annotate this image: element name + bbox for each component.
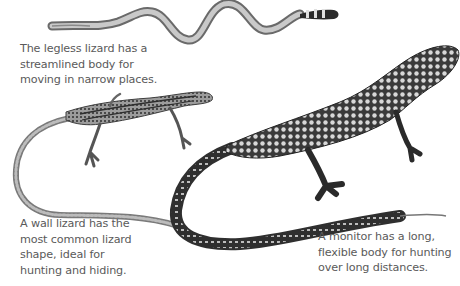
legless-lizard-illustration <box>52 3 339 40</box>
monitor-lizard-illustration <box>176 46 459 244</box>
wall-lizard-illustration <box>16 92 213 226</box>
wall-lizard-caption: A wall lizard has the most common lizard… <box>20 216 140 278</box>
legless-lizard-caption: The legless lizard has a streamlined bod… <box>20 41 170 88</box>
monitor-lizard-caption: A monitor has a long, flexible body for … <box>318 229 458 276</box>
